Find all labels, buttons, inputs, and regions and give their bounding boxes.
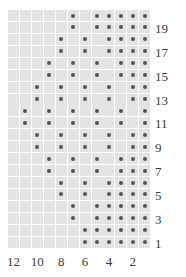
purl-dot-icon — [107, 216, 111, 220]
row-label: 17 — [155, 46, 168, 59]
chart-cell — [80, 129, 91, 140]
chart-cell — [68, 213, 79, 224]
chart-cell — [8, 34, 19, 45]
chart-cell — [92, 201, 103, 212]
purl-dot-icon — [23, 109, 27, 113]
chart-cell — [127, 213, 138, 224]
chart-cell — [80, 201, 91, 212]
purl-dot-icon — [95, 73, 99, 77]
purl-dot-icon — [119, 240, 123, 244]
purl-dot-icon — [143, 121, 147, 125]
purl-dot-icon — [59, 97, 63, 101]
chart-cell — [32, 213, 43, 224]
purl-dot-icon — [131, 228, 135, 232]
purl-dot-icon — [131, 37, 135, 41]
chart-cell — [68, 237, 79, 248]
purl-dot-icon — [59, 49, 63, 53]
chart-cell — [56, 153, 67, 164]
chart-cell — [20, 177, 31, 188]
chart-cell — [115, 94, 126, 105]
chart-cell — [92, 153, 103, 164]
chart-cell — [56, 237, 67, 248]
chart-cell — [20, 237, 31, 248]
purl-dot-icon — [143, 73, 147, 77]
chart-cell — [44, 165, 55, 176]
chart-cell — [139, 94, 150, 105]
chart-cell — [80, 46, 91, 57]
chart-cell — [139, 201, 150, 212]
purl-dot-icon — [71, 14, 75, 18]
chart-cell — [92, 225, 103, 236]
chart-cell — [115, 237, 126, 248]
purl-dot-icon — [119, 37, 123, 41]
chart-cell — [103, 34, 114, 45]
chart-cell — [20, 58, 31, 69]
chart-cell — [80, 141, 91, 152]
purl-dot-icon — [47, 61, 51, 65]
chart-cell — [92, 70, 103, 81]
chart-cell — [127, 34, 138, 45]
chart-cell — [56, 213, 67, 224]
chart-cell — [80, 82, 91, 93]
chart-cell — [92, 46, 103, 57]
chart-cell — [56, 34, 67, 45]
chart-cell — [103, 10, 114, 21]
purl-dot-icon — [143, 37, 147, 41]
chart-cell — [139, 237, 150, 248]
chart-cell — [68, 70, 79, 81]
chart-cell — [92, 34, 103, 45]
chart-cell — [80, 177, 91, 188]
chart-cell — [8, 237, 19, 248]
purl-dot-icon — [119, 49, 123, 53]
chart-cell — [115, 70, 126, 81]
purl-dot-icon — [119, 228, 123, 232]
chart-cell — [44, 213, 55, 224]
chart-cell — [80, 237, 91, 248]
chart-cell — [68, 46, 79, 57]
purl-dot-icon — [107, 49, 111, 53]
purl-dot-icon — [47, 109, 51, 113]
chart-cell — [127, 105, 138, 116]
chart-cell — [68, 225, 79, 236]
purl-dot-icon — [131, 216, 135, 220]
chart-cell — [32, 165, 43, 176]
purl-dot-icon — [107, 25, 111, 29]
chart-cell — [20, 70, 31, 81]
chart-cell — [92, 82, 103, 93]
purl-dot-icon — [71, 204, 75, 208]
chart-cell — [139, 82, 150, 93]
purl-dot-icon — [143, 25, 147, 29]
chart-cell — [127, 22, 138, 33]
purl-dot-icon — [71, 157, 75, 161]
chart-cell — [115, 46, 126, 57]
purl-dot-icon — [119, 169, 123, 173]
chart-cell — [68, 22, 79, 33]
chart-cell — [92, 10, 103, 21]
chart-cell — [139, 189, 150, 200]
chart-cell — [68, 129, 79, 140]
purl-dot-icon — [107, 204, 111, 208]
chart-cell — [103, 58, 114, 69]
chart-cell — [103, 117, 114, 128]
purl-dot-icon — [47, 157, 51, 161]
purl-dot-icon — [83, 240, 87, 244]
purl-dot-icon — [119, 157, 123, 161]
purl-dot-icon — [59, 85, 63, 89]
purl-dot-icon — [71, 109, 75, 113]
chart-cell — [44, 201, 55, 212]
purl-dot-icon — [119, 192, 123, 196]
chart-cell — [103, 201, 114, 212]
chart-cell — [8, 141, 19, 152]
chart-cell — [8, 129, 19, 140]
purl-dot-icon — [131, 85, 135, 89]
chart-cell — [139, 153, 150, 164]
chart-cell — [20, 94, 31, 105]
chart-cell — [44, 153, 55, 164]
knitting-chart-grid — [8, 10, 151, 248]
purl-dot-icon — [95, 25, 99, 29]
chart-cell — [32, 22, 43, 33]
chart-cell — [56, 129, 67, 140]
purl-dot-icon — [23, 121, 27, 125]
chart-cell — [139, 105, 150, 116]
chart-cell — [8, 213, 19, 224]
